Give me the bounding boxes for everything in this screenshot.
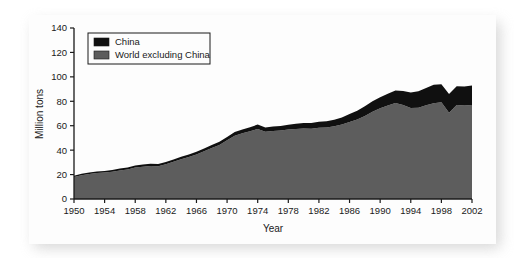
legend-label-china: China [115, 36, 141, 47]
x-tick-label: 1982 [308, 205, 329, 216]
y-tick-label: 20 [56, 169, 67, 180]
y-tick-label: 140 [51, 22, 67, 33]
x-tick-label: 1966 [186, 205, 207, 216]
x-tick-label: 1994 [400, 205, 421, 216]
x-tick-label: 1970 [217, 205, 238, 216]
stacked-area-chart: 020406080100120140 195019541958196219661… [29, 15, 496, 244]
x-tick-label: 1974 [247, 205, 268, 216]
x-tick-label: 1998 [431, 205, 452, 216]
legend-swatch-china [94, 38, 109, 46]
screenshot-root: 020406080100120140 195019541958196219661… [0, 0, 525, 258]
y-tick-label: 100 [51, 71, 67, 82]
x-tick-label: 1978 [278, 205, 299, 216]
legend-label-world-excluding-china: World excluding China [115, 49, 211, 60]
x-tick-label: 1958 [125, 205, 146, 216]
x-tick-label: 2002 [461, 205, 482, 216]
chart-card: 020406080100120140 195019541958196219661… [29, 15, 496, 244]
y-tick-label: 0 [62, 193, 67, 204]
x-tick-label: 1986 [339, 205, 360, 216]
y-tick-label: 40 [56, 145, 67, 156]
chart-legend: China World excluding China [88, 33, 211, 64]
x-axis-title: Year [263, 223, 284, 234]
x-tick-label: 1990 [370, 205, 391, 216]
y-tick-label: 80 [56, 96, 67, 107]
y-tick-label: 60 [56, 120, 67, 131]
x-tick-label: 1962 [155, 205, 176, 216]
x-tick-label: 1954 [94, 205, 115, 216]
y-axis-title: Million tons [34, 89, 45, 139]
x-tick-label: 1950 [63, 205, 84, 216]
legend-swatch-world-excluding-china [94, 51, 109, 59]
y-tick-label: 120 [51, 47, 67, 58]
